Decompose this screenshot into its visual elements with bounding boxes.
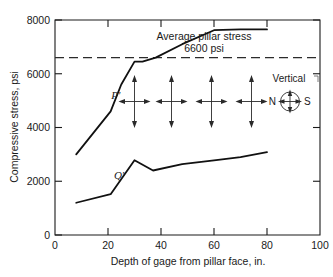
y-axis-title: Compressive stress, psi — [8, 71, 20, 182]
stress-cross-arrow-4 — [236, 75, 268, 128]
avg-pillar-stress-label-line1: Average pillar stress — [157, 30, 252, 42]
y-tick-label-2000: 2000 — [27, 175, 51, 187]
curve-label-q-prime: Q' — [114, 169, 125, 181]
stress-cross-arrow-2 — [156, 75, 188, 128]
chart-figure: 8000 6000 4000 2000 0 0 20 40 60 80 100 … — [0, 0, 333, 277]
stress-depth-line-chart: 8000 6000 4000 2000 0 0 20 40 60 80 100 … — [0, 0, 333, 277]
curve-q-prime — [76, 152, 267, 203]
x-tick-label-60: 60 — [208, 239, 220, 251]
compass-label-vertical: Vertical — [273, 73, 306, 84]
compass-label-north: N — [269, 96, 276, 107]
x-axis-title: Depth of gage from pillar face, in. — [111, 255, 266, 267]
compass-label-south: S — [304, 96, 311, 107]
x-tick-label-20: 20 — [102, 239, 114, 251]
y-tick-label-0: 0 — [44, 229, 50, 241]
stress-cross-arrow-1 — [119, 75, 151, 128]
y-tick-label-4000: 4000 — [27, 121, 51, 133]
x-tick-label-40: 40 — [155, 239, 167, 251]
y-tick-label-6000: 6000 — [27, 68, 51, 80]
x-tick-label-80: 80 — [261, 239, 273, 251]
x-tick-label-100: 100 — [311, 239, 329, 251]
avg-pillar-stress-label-line2: 6600 psi — [184, 42, 224, 54]
orientation-compass: N S Vertical — [269, 73, 318, 114]
x-tick-label-0: 0 — [52, 239, 58, 251]
y-tick-label-8000: 8000 — [27, 14, 51, 26]
stress-cross-arrow-3 — [196, 75, 228, 128]
curve-label-p-prime: P' — [110, 89, 121, 101]
